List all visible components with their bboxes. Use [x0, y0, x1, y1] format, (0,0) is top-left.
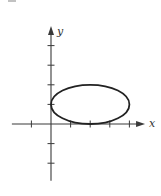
x-axis-label: x — [149, 118, 155, 129]
y-axis-arrow-icon — [48, 26, 54, 35]
plot-canvas — [0, 0, 161, 196]
axis-ticks — [31, 46, 129, 164]
cropped-caption-fragment — [8, 0, 16, 2]
y-axis-label: y — [57, 26, 63, 37]
ellipse-curve — [51, 85, 129, 124]
axes — [12, 26, 145, 181]
x-axis-arrow-icon — [136, 121, 145, 127]
ellipse-plot: x y — [0, 0, 161, 196]
curves — [51, 85, 129, 124]
